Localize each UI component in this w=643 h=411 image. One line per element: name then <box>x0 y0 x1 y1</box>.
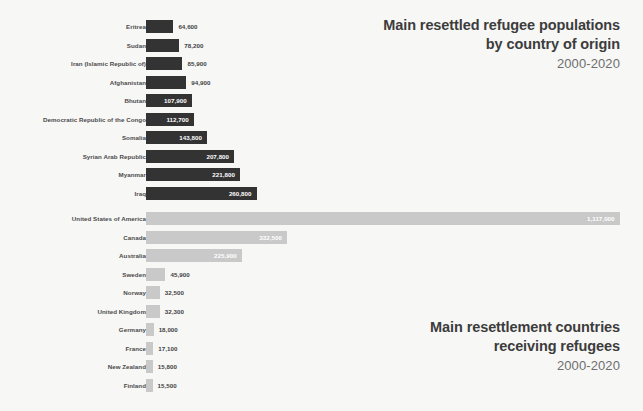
bar-category-label: United Kingdom <box>98 305 146 318</box>
bar <box>146 305 160 318</box>
bar <box>146 286 160 299</box>
bar-category-label: France <box>125 342 146 355</box>
table-row: Australia225,900 <box>0 249 643 262</box>
bar-category-label: Iran (Islamic Republic of) <box>71 57 146 70</box>
bar-category-label: Myanmar <box>118 168 146 181</box>
bar-category-label: Eritrea <box>126 20 146 33</box>
bar-value-label: 94,900 <box>191 76 210 89</box>
bar-category-label: Iraq <box>134 187 146 200</box>
chart-resettlement-countries: United States of America1,117,000Canada3… <box>0 205 643 411</box>
chart-resettlement-title-line-1: Main resettlement countries <box>430 318 620 337</box>
table-row: United States of America1,117,000 <box>0 212 643 225</box>
table-row: Eritrea64,600 <box>0 20 643 33</box>
table-row: Sudan78,200 <box>0 39 643 52</box>
bar-category-label: United States of America <box>72 212 146 225</box>
bar <box>146 57 182 70</box>
chart-page: { "colors": { "background": "#f7f7f6", "… <box>0 0 643 411</box>
bar <box>146 212 620 225</box>
chart-resettlement-subtitle: 2000-2020 <box>430 356 620 375</box>
bar-value-label: 221,800 <box>212 168 235 181</box>
bar-value-label: 15,500 <box>158 379 177 392</box>
chart-origin-countries: Main resettled refugee populations by co… <box>0 0 643 205</box>
bar-value-label: 225,900 <box>214 249 237 262</box>
table-row: Sweden45,900 <box>0 268 643 281</box>
chart-resettlement-title-line-2: receiving refugees <box>430 337 620 356</box>
table-row: Somalia143,800 <box>0 131 643 144</box>
bar-category-label: New Zealand <box>108 360 146 373</box>
table-row: Iraq260,800 <box>0 187 643 200</box>
bar <box>146 323 154 336</box>
bar <box>146 360 153 373</box>
bar-category-label: Bhutan <box>124 94 146 107</box>
table-row: Democratic Republic of the Congo112,700 <box>0 113 643 126</box>
bar-value-label: 32,300 <box>165 305 184 318</box>
table-row: Myanmar221,800 <box>0 168 643 181</box>
table-row: Norway32,500 <box>0 286 643 299</box>
bar-category-label: Australia <box>119 249 146 262</box>
bar-category-label: Afghanistan <box>110 76 146 89</box>
table-row: Bhutan107,900 <box>0 94 643 107</box>
bar-category-label: Syrian Arab Republic <box>83 150 146 163</box>
table-row: Syrian Arab Republic207,800 <box>0 150 643 163</box>
bar-value-label: 32,500 <box>165 286 184 299</box>
bar-value-label: 85,900 <box>187 57 206 70</box>
bar <box>146 20 173 33</box>
bar <box>146 39 179 52</box>
bar-value-label: 332,500 <box>259 231 282 244</box>
table-row: Canada332,500 <box>0 231 643 244</box>
bar-value-label: 143,800 <box>179 131 202 144</box>
bar-value-label: 15,800 <box>158 360 177 373</box>
bar-category-label: Norway <box>123 286 146 299</box>
bar-value-label: 78,200 <box>184 39 203 52</box>
bar-value-label: 18,000 <box>159 323 178 336</box>
bar-category-label: Sudan <box>127 39 146 52</box>
bar-value-label: 207,800 <box>206 150 229 163</box>
bar-value-label: 112,700 <box>166 113 188 126</box>
bar-category-label: Germany <box>119 323 146 336</box>
bar-category-label: Sweden <box>122 268 146 281</box>
bar-value-label: 45,900 <box>170 268 189 281</box>
bar <box>146 379 153 392</box>
table-row: Iran (Islamic Republic of)85,900 <box>0 57 643 70</box>
bar-category-label: Democratic Republic of the Congo <box>43 113 146 126</box>
bar <box>146 342 153 355</box>
bar-value-label: 17,100 <box>158 342 177 355</box>
bar-category-label: Canada <box>123 231 146 244</box>
bar-category-label: Finland <box>124 379 146 392</box>
bar-value-label: 107,900 <box>164 94 187 107</box>
bar-category-label: Somalia <box>122 131 146 144</box>
bar-value-label: 64,600 <box>178 20 197 33</box>
table-row: Finland15,500 <box>0 379 643 392</box>
bar-value-label: 1,117,000 <box>587 212 615 225</box>
chart-resettlement-title-block: Main resettlement countries receiving re… <box>430 318 620 375</box>
table-row: Afghanistan94,900 <box>0 76 643 89</box>
table-row: United Kingdom32,300 <box>0 305 643 318</box>
bar-value-label: 260,800 <box>229 187 252 200</box>
bar <box>146 76 186 89</box>
bar <box>146 268 165 281</box>
